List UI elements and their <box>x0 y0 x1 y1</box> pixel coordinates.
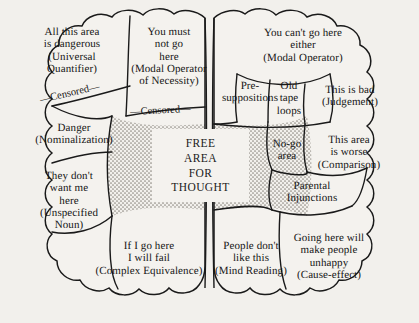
brain-diagram: All this area is dangerous (Universal Qu… <box>0 0 419 323</box>
free-area-for-thought: FREE AREA FOR THOUGHT <box>152 129 249 202</box>
